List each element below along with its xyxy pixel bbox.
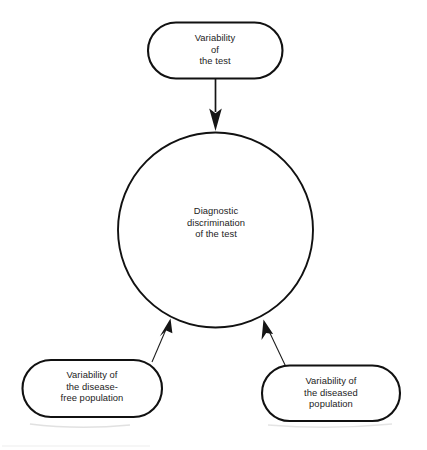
edge-arrowhead-bottom-left-to-center [160,319,173,337]
edge-line-bottom-right-to-center [268,329,286,367]
edge-line-bottom-left-to-center [152,327,167,362]
diagram-graphics [0,0,427,450]
node-shape-variability-of-the-test [148,23,283,79]
node-shape-variability-diseased-population [262,366,400,422]
diagram-canvas: Variability of the test Diagnostic discr… [0,0,427,450]
scan-artifact-marks [2,424,392,446]
node-shape-diagnostic-discrimination [118,133,313,328]
node-shape-variability-disease-free-population [23,360,163,417]
